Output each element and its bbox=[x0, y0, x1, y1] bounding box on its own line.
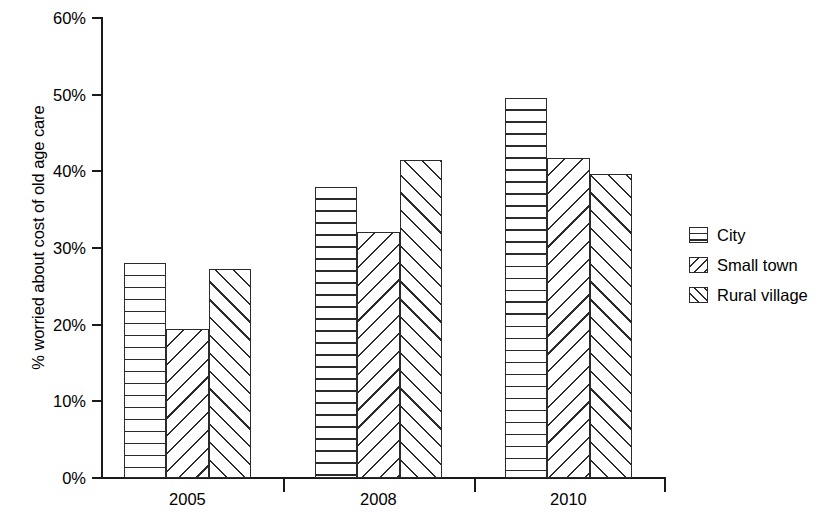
bar-2010-city bbox=[505, 98, 547, 478]
y-axis-title: % worried about cost of old age care bbox=[29, 48, 48, 428]
x-axis-label-2008: 2008 bbox=[360, 490, 397, 509]
x-axis-separator-tick bbox=[474, 479, 476, 492]
y-axis-tick-label: 40% bbox=[0, 163, 86, 180]
plot-area bbox=[101, 18, 665, 478]
y-axis-tick-label: 0% bbox=[0, 470, 86, 487]
legend-swatch-icon bbox=[689, 257, 708, 273]
bar-2010-small-town bbox=[547, 158, 589, 478]
x-axis-separator-tick bbox=[664, 479, 666, 492]
y-axis-tick-mark bbox=[92, 247, 101, 249]
y-axis-tick-mark bbox=[92, 400, 101, 402]
y-axis-tick-mark bbox=[92, 94, 101, 96]
bar-2005-rural-village bbox=[209, 269, 251, 478]
bar-2008-small-town bbox=[357, 232, 399, 478]
legend-swatch-icon bbox=[689, 227, 708, 243]
x-axis-label-2005: 2005 bbox=[169, 490, 206, 509]
y-axis-tick-label: 10% bbox=[0, 393, 86, 410]
bar-2010-rural-village bbox=[590, 174, 632, 478]
y-axis-tick-mark bbox=[92, 477, 101, 479]
bar-2005-city bbox=[124, 263, 166, 478]
y-axis-tick-label: 30% bbox=[0, 240, 86, 257]
y-axis-tick-label: 60% bbox=[0, 10, 86, 27]
y-axis-tick-label: 20% bbox=[0, 316, 86, 333]
y-axis-tick-label: 50% bbox=[0, 86, 86, 103]
legend-item-city: City bbox=[689, 220, 808, 250]
x-axis-label-2010: 2010 bbox=[550, 490, 587, 509]
x-axis-separator-tick bbox=[283, 479, 285, 492]
bar-chart: % worried about cost of old age care 0%1… bbox=[0, 0, 836, 517]
legend-label: City bbox=[717, 226, 745, 245]
legend-item-small-town: Small town bbox=[689, 250, 808, 280]
legend-label: Small town bbox=[717, 256, 798, 275]
bar-2005-small-town bbox=[166, 329, 208, 478]
y-axis-tick-mark bbox=[92, 17, 101, 19]
legend-item-rural-village: Rural village bbox=[689, 280, 808, 310]
bar-2008-city bbox=[315, 187, 357, 478]
y-axis-tick-mark bbox=[92, 170, 101, 172]
bar-2008-rural-village bbox=[400, 160, 442, 478]
legend: CitySmall townRural village bbox=[689, 220, 808, 310]
legend-swatch-icon bbox=[689, 287, 708, 303]
y-axis-tick-mark bbox=[92, 324, 101, 326]
legend-label: Rural village bbox=[717, 286, 808, 305]
